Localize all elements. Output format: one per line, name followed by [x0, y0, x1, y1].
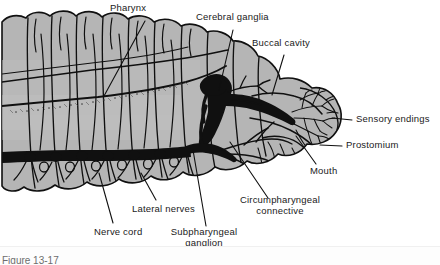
label-nerve-cord: Nerve cord [94, 226, 142, 237]
label-subpharyngeal-ganglion-line1: Subpharyngeal [148, 226, 260, 237]
label-sensory-endings: Sensory endings [356, 113, 430, 124]
label-buccal-cavity: Buccal cavity [252, 37, 310, 48]
label-circumpharyngeal-connective-line1: Circumpharyngeal [228, 194, 332, 205]
figure-caption: Figure 13-17 [2, 255, 59, 264]
leader-prostomium [320, 145, 342, 146]
label-mouth: Mouth [310, 165, 337, 176]
label-circumpharyngeal-connective-line2: connective [228, 205, 332, 216]
caption-band [0, 246, 440, 265]
label-pharynx: Pharynx [110, 2, 146, 13]
label-cerebral-ganglia: Cerebral ganglia [196, 11, 269, 22]
label-lateral-nerves: Lateral nerves [132, 203, 195, 214]
label-prostomium: Prostomium [346, 139, 399, 150]
